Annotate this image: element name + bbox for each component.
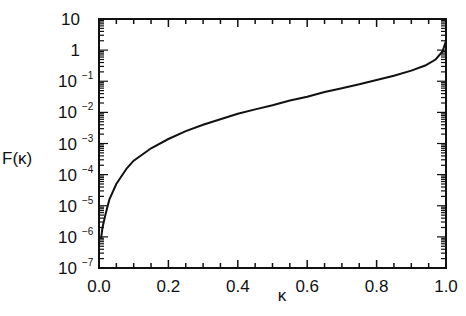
y-tick-label: 10 bbox=[58, 228, 77, 247]
y-tick-label: 10 bbox=[58, 259, 77, 278]
y-axis-ticks bbox=[99, 20, 446, 268]
y-axis-title: F(κ) bbox=[2, 149, 32, 168]
f-kappa-curve bbox=[101, 41, 446, 239]
y-tick-label: 1 bbox=[71, 41, 80, 60]
y-tick-exponent: −2 bbox=[82, 101, 94, 112]
y-tick-label: 10 bbox=[58, 135, 77, 154]
y-tick-exponent: −3 bbox=[82, 133, 94, 144]
x-tick-label: 0.0 bbox=[87, 277, 111, 296]
y-tick-label: 10 bbox=[61, 10, 80, 29]
chart: 0.00.20.40.60.81.0 10110−110−210−310−410… bbox=[0, 0, 466, 316]
y-tick-exponent: −7 bbox=[82, 257, 94, 268]
y-tick-exponent: −4 bbox=[82, 164, 94, 175]
plot-frame bbox=[99, 19, 446, 268]
x-axis-tick-labels: 0.00.20.40.60.81.0 bbox=[87, 277, 458, 296]
x-tick-label: 0.4 bbox=[226, 277, 250, 296]
y-tick-label: 10 bbox=[58, 103, 77, 122]
x-axis-title: κ bbox=[278, 286, 287, 305]
x-tick-label: 1.0 bbox=[434, 277, 458, 296]
x-tick-label: 0.8 bbox=[365, 277, 389, 296]
y-tick-label: 10 bbox=[58, 166, 77, 185]
x-tick-label: 0.6 bbox=[295, 277, 319, 296]
y-tick-label: 10 bbox=[58, 197, 77, 216]
x-axis-ticks bbox=[99, 19, 446, 268]
y-tick-exponent: −5 bbox=[82, 195, 94, 206]
x-tick-label: 0.2 bbox=[157, 277, 181, 296]
y-tick-exponent: −1 bbox=[82, 70, 94, 81]
y-axis-tick-labels: 10110−110−210−310−410−510−610−7 bbox=[58, 10, 94, 278]
y-tick-exponent: −6 bbox=[82, 226, 94, 237]
y-tick-label: 10 bbox=[58, 72, 77, 91]
